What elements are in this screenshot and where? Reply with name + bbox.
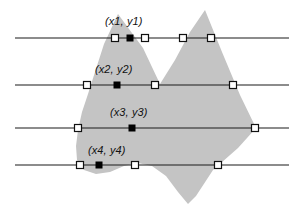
open-intersection-marker bbox=[208, 35, 215, 42]
filled-point-marker bbox=[96, 162, 103, 169]
open-intersection-marker bbox=[215, 162, 222, 169]
point-label-2: (x2, y2) bbox=[95, 64, 132, 75]
figure-canvas: (x1, y1)(x2, y2)(x3, y3)(x4, y4) bbox=[0, 0, 304, 214]
open-intersection-marker bbox=[84, 82, 91, 89]
open-intersection-marker bbox=[142, 35, 149, 42]
point-label-4: (x4, y4) bbox=[88, 145, 125, 156]
open-intersection-marker bbox=[230, 82, 237, 89]
point-label-1: (x1, y1) bbox=[105, 16, 142, 27]
filled-point-marker bbox=[114, 82, 121, 89]
point-label-3: (x3, y3) bbox=[110, 107, 147, 118]
open-intersection-marker bbox=[112, 35, 119, 42]
open-intersection-marker bbox=[75, 125, 82, 132]
filled-point-marker bbox=[127, 35, 134, 42]
open-intersection-marker bbox=[77, 162, 84, 169]
open-intersection-marker bbox=[252, 125, 259, 132]
open-intersection-marker bbox=[132, 162, 139, 169]
filled-polygon-region bbox=[76, 10, 256, 204]
open-intersection-marker bbox=[152, 82, 159, 89]
open-intersection-marker bbox=[180, 35, 187, 42]
diagram-svg bbox=[0, 0, 304, 214]
filled-point-marker bbox=[129, 125, 136, 132]
